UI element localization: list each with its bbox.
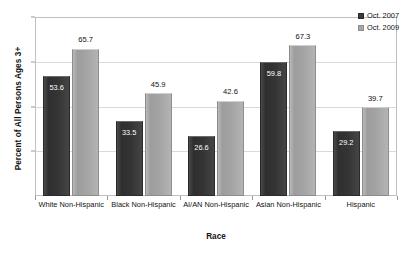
x-axis-category-label: Hispanic: [325, 200, 397, 209]
legend-label: Oct. 2009: [367, 23, 399, 32]
bar[interactable]: 26.6: [188, 136, 215, 196]
bar[interactable]: 59.8: [260, 62, 287, 196]
bar[interactable]: 29.2: [333, 131, 360, 196]
legend-label: Oct. 2007: [367, 11, 399, 20]
bar-groups: 53.665.733.545.926.642.659.867.329.239.7: [35, 17, 397, 196]
bar-value-label: 53.6: [44, 84, 69, 91]
bar[interactable]: 39.7: [362, 107, 389, 196]
bar[interactable]: 45.9: [145, 93, 172, 196]
legend-swatch-icon: [358, 13, 364, 19]
bar-chart: Percent of All Persons Ages 3+ 20406080 …: [0, 0, 405, 255]
bar-value-label: 33.5: [117, 129, 142, 136]
bar-value-label: 39.7: [354, 95, 397, 103]
bar[interactable]: 33.5: [116, 121, 143, 196]
bar-value-label: 59.8: [261, 70, 286, 77]
x-axis-category-label: Asian Non-Hispanic: [252, 200, 324, 209]
bar-value-label: 67.3: [281, 33, 324, 41]
y-axis-title: Percent of All Persons Ages 3+: [14, 29, 23, 189]
bar-group: 53.665.7: [35, 17, 107, 196]
x-axis-category-label: Black Non-Hispanic: [107, 200, 179, 209]
bar-value-label: 65.7: [64, 36, 107, 44]
bar-group: 33.545.9: [107, 17, 179, 196]
bar-value-label: 42.6: [209, 88, 252, 96]
x-axis-title: Race: [35, 232, 397, 241]
bar[interactable]: 42.6: [217, 101, 244, 196]
legend: Oct. 2007Oct. 2009: [358, 11, 399, 32]
bar[interactable]: 53.6: [43, 76, 70, 196]
legend-item[interactable]: Oct. 2009: [358, 23, 399, 32]
x-axis-tick-mark: [397, 196, 398, 200]
bar-value-label: 26.6: [189, 144, 214, 151]
bar[interactable]: 67.3: [289, 45, 316, 196]
legend-item[interactable]: Oct. 2007: [358, 11, 399, 20]
bar-group: 29.239.7: [325, 17, 397, 196]
bar-value-label: 29.2: [334, 139, 359, 146]
bar-group: 26.642.6: [180, 17, 252, 196]
bar[interactable]: 65.7: [72, 49, 99, 196]
x-axis-category-label: White Non-Hispanic: [35, 200, 107, 209]
bar-value-label: 45.9: [137, 81, 180, 89]
bar-group: 59.867.3: [252, 17, 324, 196]
legend-swatch-icon: [358, 25, 364, 31]
x-axis-category-label: AI/AN Non-Hispanic: [180, 200, 252, 209]
